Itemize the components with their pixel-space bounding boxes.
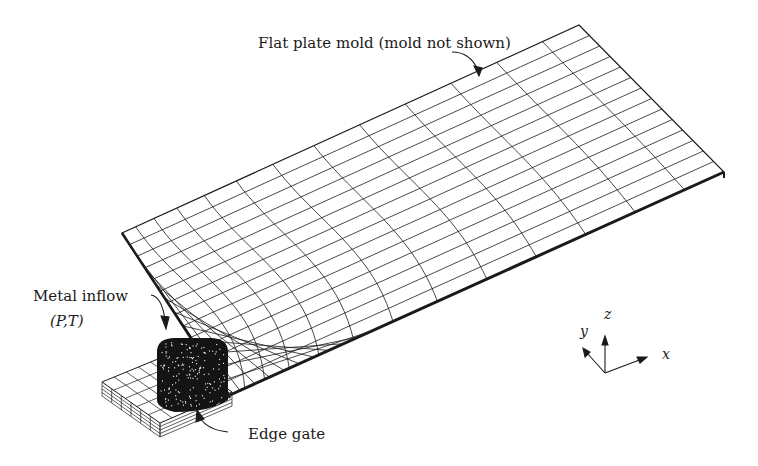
metal-inflow-cylinder: [157, 338, 228, 412]
finite-element-mesh-figure: [0, 0, 758, 466]
flat-plate-mesh: [130, 36, 714, 391]
gate-leader: [200, 418, 228, 432]
plate-mold-label: Flat plate mold (mold not shown): [258, 34, 511, 52]
axis-x-label: x: [662, 346, 670, 362]
edge-gate-label: Edge gate: [248, 425, 325, 443]
axis-y-label: y: [580, 323, 588, 339]
metal-inflow-label: Metal inflow: [33, 287, 128, 305]
axis-triad: [583, 336, 647, 373]
inflow-variables-label: (P,T): [50, 312, 84, 330]
axis-z-label: z: [604, 306, 611, 322]
